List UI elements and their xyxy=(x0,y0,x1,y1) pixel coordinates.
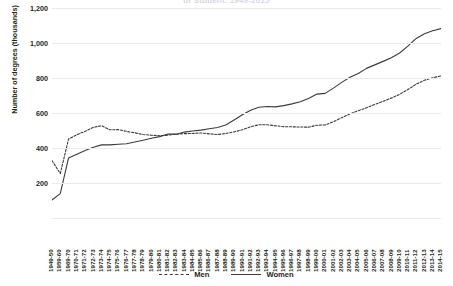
legend-item-women[interactable]: Women xyxy=(231,270,293,279)
x-axis-tick-label: 1997-98 xyxy=(296,249,302,272)
x-axis-tick-label: 1988-89 xyxy=(222,249,228,272)
x-axis-tick-label: 1989-90 xyxy=(230,249,236,272)
x-axis-tick-label: 1969-70 xyxy=(65,249,71,272)
y-axis-ticks: 2004006008001,0001,200 xyxy=(10,0,48,218)
x-axis-tick-label: 1987-88 xyxy=(214,249,220,272)
x-axis-tick-label: 2003-04 xyxy=(346,249,352,272)
x-axis-tick-label: 2007-08 xyxy=(379,249,385,272)
series-line-men xyxy=(52,76,441,174)
series-line-women xyxy=(52,29,441,200)
x-axis-tick-label: 1985-86 xyxy=(197,249,203,272)
plot-area xyxy=(52,8,441,218)
x-axis-tick-label: 2010-11 xyxy=(404,250,410,272)
x-axis-tick-label: 1999-00 xyxy=(313,249,319,272)
x-axis-tick-label: 2008-09 xyxy=(388,249,394,272)
x-axis-tick-label: 1994-95 xyxy=(272,249,278,272)
x-axis-tick-label: 1984-85 xyxy=(189,249,195,272)
x-axis-tick-label: 1990-91 xyxy=(239,249,245,272)
x-axis-tick-label: 1992-93 xyxy=(255,249,261,272)
x-axis-tick-label: 1982-83 xyxy=(172,249,178,272)
x-axis-tick-label: 1995-96 xyxy=(280,249,286,272)
x-axis-tick-label: 1972-73 xyxy=(90,249,96,272)
line-chart: of Student, 1949-2015 Number of degrees … xyxy=(0,0,453,286)
x-axis-tick-label: 1959-60 xyxy=(56,249,62,272)
x-axis-tick-label: 1993-94 xyxy=(263,249,269,272)
gridline xyxy=(52,218,441,219)
x-axis-tick-label: 1979-80 xyxy=(148,249,154,272)
gridline xyxy=(52,78,441,79)
x-axis-tick-label: 2001-02 xyxy=(330,249,336,272)
chart-legend: MenWomen xyxy=(0,270,453,279)
x-axis-tick-label: 2000-01 xyxy=(321,249,327,272)
y-axis-tick-label: 1,200 xyxy=(14,5,48,12)
x-axis-tick-label: 2009-10 xyxy=(396,249,402,272)
x-axis-ticks: 1949-501959-601969-701970-711971-721972-… xyxy=(52,220,441,272)
y-axis-tick-label: 200 xyxy=(14,180,48,187)
gridline xyxy=(52,148,441,149)
gridline xyxy=(52,183,441,184)
x-axis-tick-label: 1971-72 xyxy=(81,249,87,272)
x-axis-tick-label: 2005-06 xyxy=(363,249,369,272)
legend-item-men[interactable]: Men xyxy=(159,270,209,279)
x-axis-tick-label: 2002-03 xyxy=(338,249,344,272)
x-axis-tick-label: 1977-78 xyxy=(131,249,137,272)
gridline xyxy=(52,8,441,9)
x-axis-tick-label: 1986-87 xyxy=(205,249,211,272)
legend-swatch-dashed-line-icon xyxy=(159,274,189,275)
x-axis-tick-label: 1981-82 xyxy=(164,249,170,272)
x-axis-tick-label: 2013-14 xyxy=(429,249,435,272)
x-axis-tick-label: 2011-12 xyxy=(412,250,418,272)
x-axis-tick-label: 1970-71 xyxy=(73,249,79,272)
chart-title: of Student, 1949-2015 xyxy=(0,0,453,3)
y-axis-tick-label: 600 xyxy=(14,110,48,117)
legend-swatch-solid-line-icon xyxy=(231,274,261,275)
x-axis-tick-label: 1996-97 xyxy=(288,249,294,272)
x-axis-tick-label: 2004-05 xyxy=(354,249,360,272)
x-axis-tick-label: 1975-76 xyxy=(114,249,120,272)
x-axis-tick-label: 1974-75 xyxy=(106,249,112,272)
x-axis-tick-label: 1983-84 xyxy=(181,249,187,272)
x-axis-tick-label: 1973-74 xyxy=(98,249,104,272)
x-axis-tick-label: 1998-99 xyxy=(305,249,311,272)
legend-label: Men xyxy=(194,270,209,279)
x-axis-tick-label: 1976-77 xyxy=(123,249,129,272)
x-axis-tick-label: 1980-81 xyxy=(156,249,162,272)
x-axis-tick-label: 2012-13 xyxy=(421,249,427,272)
y-axis-tick-label: 1,000 xyxy=(14,40,48,47)
x-axis-tick-label: 2006-07 xyxy=(371,249,377,272)
y-axis-tick-label: 800 xyxy=(14,75,48,82)
gridline xyxy=(52,43,441,44)
legend-label: Women xyxy=(266,270,293,279)
x-axis-tick-label: 1978-79 xyxy=(139,249,145,272)
x-axis-tick-label: 1991-92 xyxy=(247,249,253,272)
gridline xyxy=(52,113,441,114)
y-axis-tick-label: 400 xyxy=(14,145,48,152)
x-axis-tick-label: 1949-50 xyxy=(48,249,54,272)
x-axis-tick-label: 2014-15 xyxy=(437,249,443,272)
